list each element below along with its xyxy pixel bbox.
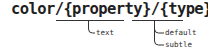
text-connector (89, 21, 96, 34)
subtle-connector (155, 29, 165, 45)
default-connector (155, 21, 165, 34)
type-value-default: default (165, 29, 197, 37)
type-value-subtle: subtle (165, 41, 192, 49)
property-value-text: text (96, 29, 114, 37)
